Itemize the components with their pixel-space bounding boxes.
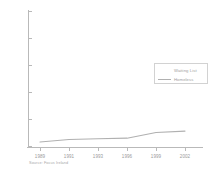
legend-label: Homeless: [174, 77, 193, 83]
source-caption: Source: Focus Ireland: [29, 160, 68, 166]
x-axis-spine: [27, 147, 203, 148]
legend-item-waiting-list: Waiting List: [155, 66, 209, 75]
y-tick-mark: [28, 92, 32, 93]
x-tick-mark: [127, 147, 128, 151]
legend-label: Waiting List: [174, 68, 197, 74]
legend-item-homeless: Homeless: [155, 75, 209, 84]
series-line-homeless: [40, 131, 185, 142]
y-tick-mark: [28, 146, 32, 147]
x-tick-label: 1999: [142, 153, 170, 160]
y-tick-mark: [28, 38, 32, 39]
legend-swatch-icon: [158, 79, 171, 80]
x-tick-mark: [156, 147, 157, 151]
x-tick-mark: [40, 147, 41, 151]
y-tick-mark: [28, 119, 32, 120]
x-tick-label: 1996: [113, 153, 141, 160]
x-tick-mark: [185, 147, 186, 151]
line-chart: 50000 40000 30000 20000 10000 0 1989: [0, 0, 221, 175]
x-tick-mark: [98, 147, 99, 151]
x-tick-mark: [69, 147, 70, 151]
x-tick-label: 2002: [171, 153, 199, 160]
y-axis-spine: [28, 10, 29, 147]
y-tick-mark: [28, 11, 32, 12]
y-tick-mark: [28, 65, 32, 66]
x-tick-label: 1993: [84, 153, 112, 160]
legend-swatch-icon: [158, 70, 171, 71]
x-tick-label: 1991: [55, 153, 83, 160]
legend: Waiting List Homeless: [154, 63, 208, 84]
x-tick-label: 1989: [26, 153, 54, 160]
series-layer: [0, 0, 221, 175]
